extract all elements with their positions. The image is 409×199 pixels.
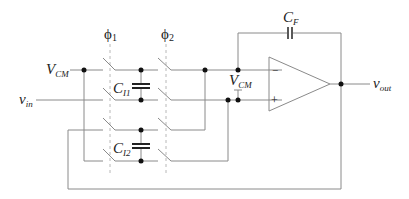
ci1-label: CI1 [113,80,131,98]
opamp: − + [269,57,330,111]
ci2-label: CI2 [113,140,131,158]
capacitor-ci1 [132,70,150,100]
row1-wiring [70,58,282,70]
capacitor-cf [238,27,341,84]
phi1-label: ϕ1 [104,26,117,43]
vin-label: vin [19,91,33,109]
phi2-label: ϕ2 [161,26,174,43]
circuit-diagram: ϕ1 ϕ2 [0,0,409,199]
opamp-plus-sign: + [271,93,278,107]
vcm-left-label: VCM [46,61,69,79]
cf-label: CF [283,9,299,27]
opamp-minus-sign: − [272,64,278,76]
vout-label: vout [373,75,392,93]
vcm-right-label: VCM [229,72,252,90]
capacitor-ci2 [132,130,150,161]
row3-wiring [68,118,205,130]
row4-wiring [84,149,228,161]
